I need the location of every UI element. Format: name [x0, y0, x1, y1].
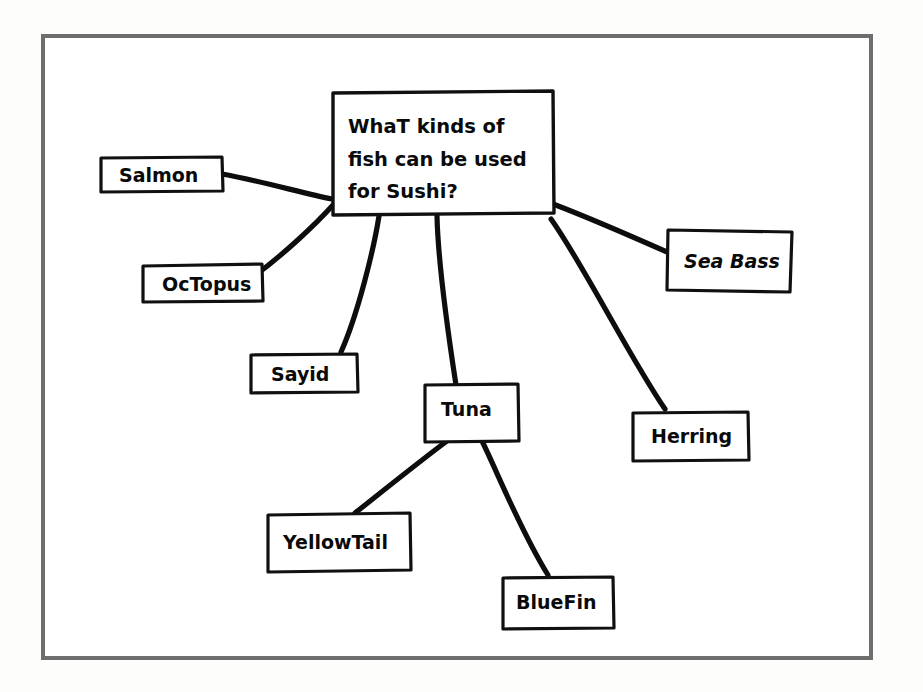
node-yellowtail[interactable]: YellowTail: [268, 513, 411, 572]
yellowtail-node-label: YellowTail: [282, 531, 388, 553]
node-sayid[interactable]: Sayid: [251, 354, 358, 393]
node-tuna[interactable]: Tuna: [425, 384, 519, 442]
sea-bass-node-label: Sea Bass: [684, 250, 780, 272]
node-central-question[interactable]: WhaT kinds of fish can be used for Sushi…: [333, 91, 554, 215]
central-node-line-3: for Sushi?: [348, 180, 458, 203]
node-salmon[interactable]: Salmon: [101, 157, 223, 192]
octopus-node-label: OcTopus: [162, 273, 251, 295]
herring-node-label: Herring: [651, 425, 732, 447]
sayid-node-label: Sayid: [271, 363, 329, 385]
node-octopus[interactable]: OcTopus: [143, 264, 263, 302]
diagram-canvas: WhaT kinds of fish can be used for Sushi…: [0, 0, 923, 692]
node-sea-bass[interactable]: Sea Bass: [667, 230, 792, 292]
node-bluefin[interactable]: BlueFin: [503, 577, 614, 629]
central-node-line-2: fish can be used: [348, 148, 527, 171]
bluefin-node-label: BlueFin: [516, 591, 596, 613]
salmon-node-label: Salmon: [119, 164, 198, 186]
central-node-line-1: WhaT kinds of: [348, 115, 505, 138]
node-herring[interactable]: Herring: [633, 412, 749, 461]
tuna-node-label: Tuna: [441, 398, 492, 420]
